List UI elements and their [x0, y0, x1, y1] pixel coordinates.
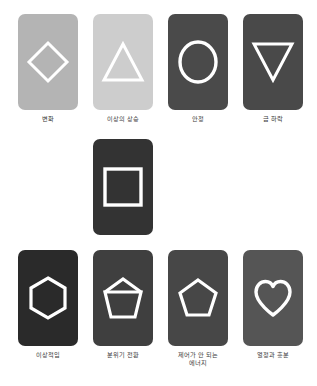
card-stability[interactable] — [168, 14, 228, 110]
square-icon — [101, 165, 145, 209]
triangle-up-icon — [101, 41, 145, 83]
hexagon-icon — [26, 275, 70, 321]
card-uncontrolled-energy[interactable] — [168, 250, 228, 346]
card-cell-change[interactable]: 변화 — [18, 14, 78, 123]
card-board: 변화 이상의 상승 안정 급 하락 — [0, 0, 317, 386]
card-label-stability: 안정 — [163, 115, 233, 123]
card-label-mood-change: 분위기 전환 — [88, 351, 158, 359]
circle-icon — [177, 39, 219, 85]
card-label-uncontrolled-energy: 제어가 안 되는 에너지 — [163, 351, 233, 367]
pentagon-down-icon — [101, 276, 145, 320]
card-square[interactable] — [93, 139, 153, 235]
card-row-bottom: 이상적임 분위기 전환 제어가 안 되는 에너지 — [0, 250, 317, 367]
card-cell-stability[interactable]: 안정 — [168, 14, 228, 123]
card-change[interactable] — [18, 14, 78, 110]
card-label-ideal: 이상적임 — [13, 351, 83, 359]
heart-icon — [251, 277, 295, 319]
card-row-middle — [0, 139, 317, 240]
card-cell-ideal[interactable]: 이상적임 — [18, 250, 78, 367]
card-label-ideal-rise: 이상의 상승 — [88, 115, 158, 123]
pentagon-up-icon — [177, 277, 219, 319]
card-label-change: 변화 — [13, 115, 83, 123]
card-cell-mood-change[interactable]: 분위기 전환 — [93, 250, 153, 367]
card-label-passion-excitement: 열정과 흥분 — [238, 351, 308, 359]
card-cell-sharp-drop[interactable]: 급 하락 — [243, 14, 303, 123]
card-row-top: 변화 이상의 상승 안정 급 하락 — [0, 14, 317, 123]
triangle-down-icon — [251, 41, 295, 83]
card-cell-ideal-rise[interactable]: 이상의 상승 — [93, 14, 153, 123]
card-label-sharp-drop: 급 하락 — [238, 115, 308, 123]
card-ideal[interactable] — [18, 250, 78, 346]
card-sharp-drop[interactable] — [243, 14, 303, 110]
card-mood-change[interactable] — [93, 250, 153, 346]
diamond-icon — [26, 40, 70, 84]
card-ideal-rise[interactable] — [93, 14, 153, 110]
card-cell-uncontrolled-energy[interactable]: 제어가 안 되는 에너지 — [168, 250, 228, 367]
card-cell-square[interactable] — [93, 139, 153, 240]
card-cell-passion-excitement[interactable]: 열정과 흥분 — [243, 250, 303, 367]
card-passion-excitement[interactable] — [243, 250, 303, 346]
